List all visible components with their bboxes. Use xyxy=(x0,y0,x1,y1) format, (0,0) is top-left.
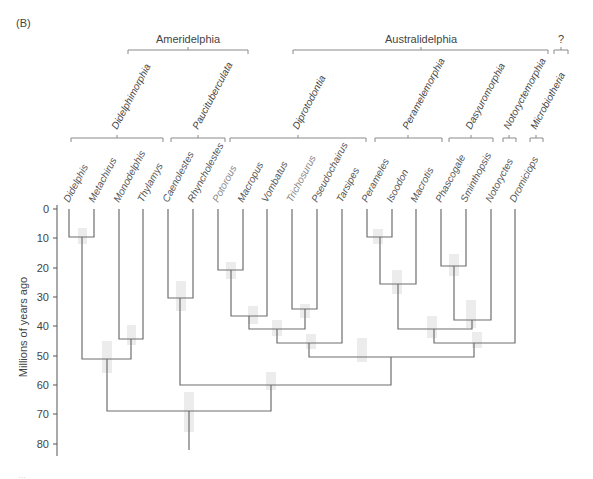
bracket-ameridelphia xyxy=(128,47,248,54)
axis-tick-label: 50 xyxy=(37,350,49,362)
confidence-interval-boxes xyxy=(78,228,482,432)
taxon-label: Potorous xyxy=(210,163,239,204)
taxon-label: Tarsipes xyxy=(334,166,361,204)
order-label: Dasyuromorphia xyxy=(463,61,507,131)
axis-tick-label: 0 xyxy=(43,203,49,215)
bracket-unknown xyxy=(554,47,568,54)
superorder-label-ameridelphia: Ameridelphia xyxy=(156,33,221,45)
taxon-label: Isoodon xyxy=(384,167,411,204)
order-label: Diprotodontia xyxy=(290,73,328,131)
axis-tick-label: 60 xyxy=(37,379,49,391)
axis-tick-label: 30 xyxy=(37,291,49,303)
order-label: Didelphimorphia xyxy=(109,62,153,131)
figure-caption-truncated: … xyxy=(18,471,27,479)
taxon-labels: Didelphis Metachirus Monodelphis Thylamy… xyxy=(61,140,540,204)
order-label: Peramelemorphia xyxy=(400,56,447,131)
order-brackets xyxy=(71,135,543,142)
axis-tick-label: 20 xyxy=(37,262,49,274)
superorder-label-unknown: ? xyxy=(558,33,564,45)
y-axis-title: Millions of years ago xyxy=(17,277,29,377)
axis-tick-label: 70 xyxy=(37,408,49,420)
superorder-label-australidelphia: Australidelphia xyxy=(385,33,458,45)
superorder-brackets xyxy=(128,47,568,54)
axis-tick-label: 10 xyxy=(37,232,49,244)
axis-tick-label: 80 xyxy=(37,438,49,450)
order-label: Paucituberculata xyxy=(190,60,235,131)
y-axis: 0 10 20 30 40 50 60 70 80 Millions of ye… xyxy=(17,203,57,456)
order-labels: Didelphimorphia Paucituberculata Diproto… xyxy=(109,56,567,131)
taxon-label: Macrotis xyxy=(408,165,435,204)
phylogenetic-tree-figure: Ameridelphia Australidelphia ? Didelphim… xyxy=(0,0,593,479)
bracket-australidelphia xyxy=(293,47,548,54)
axis-tick-label: 40 xyxy=(37,320,49,332)
